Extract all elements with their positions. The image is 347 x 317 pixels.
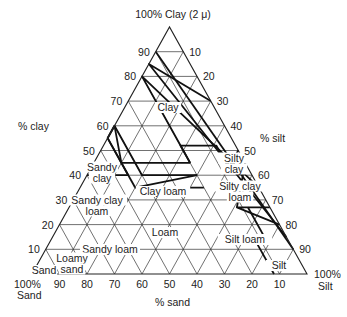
class-label-loamy-sand: sand [61, 263, 84, 275]
class-label-loam: Loam [152, 226, 179, 238]
class-boundary [237, 207, 280, 224]
clay-tick: 40 [69, 169, 81, 181]
silt-corner-name: Silt [318, 280, 333, 292]
silt-tick: 40 [231, 120, 243, 132]
class-label-sandy-clay-loam: loam [86, 205, 109, 217]
class-label-silt: Silt [272, 259, 287, 271]
class-label-sandy-loam: Sandy loam [82, 243, 138, 255]
silt-tick: 80 [286, 219, 298, 231]
sand-tick: 10 [274, 278, 286, 290]
silt-tick: 90 [299, 243, 311, 255]
clay-axis-label: % clay [18, 120, 50, 132]
class-label-clay-loam: Clay loam [140, 185, 187, 197]
silt-tick: 10 [189, 46, 201, 58]
silt-tick: 50 [244, 145, 256, 157]
clay-tick: 60 [97, 120, 109, 132]
silt-tick: 30 [217, 95, 229, 107]
class-label-clay: Clay [157, 101, 179, 113]
clay-tick: 90 [138, 46, 150, 58]
sand-axis-label: % sand [155, 296, 190, 308]
sand-tick: 20 [246, 278, 258, 290]
clay-tick: 50 [83, 145, 95, 157]
silt-tick: 20 [203, 70, 215, 82]
class-label-silty-clay: clay [225, 163, 244, 175]
clay-tick: 30 [56, 194, 68, 206]
silt-tick: 70 [272, 194, 284, 206]
clay-tick: 70 [111, 95, 123, 107]
sand-tick: 40 [191, 278, 203, 290]
class-label-silty-clay-loam: loam [229, 191, 252, 203]
sand-tick: 30 [219, 278, 231, 290]
sand-tick: 60 [136, 278, 148, 290]
clay-tick: 80 [124, 70, 136, 82]
apex-title: 100% Clay (2 μ) [135, 8, 211, 20]
sand-tick: 70 [109, 278, 121, 290]
silt-tick: 60 [258, 169, 270, 181]
sand-corner-name: Sand [17, 289, 42, 301]
sand-tick: 80 [81, 278, 93, 290]
soil-texture-triangle: ClaySandyclaySiltyclayClay loamSilty cla… [0, 0, 347, 317]
sand-tick: 50 [164, 278, 176, 290]
sand-tick: 90 [54, 278, 66, 290]
clay-tick: 20 [42, 219, 54, 231]
class-label-silt-loam: Silt loam [225, 233, 266, 245]
clay-tick: 10 [28, 243, 40, 255]
class-label-sand: Sand [32, 264, 57, 276]
texture-class-labels: ClaySandyclaySiltyclayClay loamSilty cla… [31, 101, 292, 276]
class-label-sandy-clay: clay [93, 172, 112, 184]
silt-axis-label: % silt [260, 132, 285, 144]
silt-corner-pct: 100% [314, 268, 341, 280]
